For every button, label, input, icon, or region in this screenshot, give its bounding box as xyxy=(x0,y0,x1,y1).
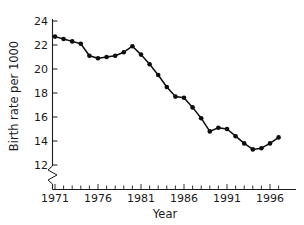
data-point xyxy=(113,54,118,59)
x-axis-title: Year xyxy=(152,207,178,221)
data-point xyxy=(79,42,84,47)
y-tick-label-12: 12 xyxy=(34,159,48,172)
data-point xyxy=(147,62,152,67)
data-point xyxy=(216,126,221,131)
data-point xyxy=(53,34,58,39)
y-axis-break-icon xyxy=(48,166,57,184)
data-point xyxy=(96,56,101,61)
data-point xyxy=(130,44,135,49)
data-point xyxy=(233,134,238,139)
data-point xyxy=(208,129,213,134)
data-point xyxy=(87,54,92,59)
data-point xyxy=(104,55,109,60)
x-tick-label-1991: 1991 xyxy=(213,192,241,205)
data-point xyxy=(182,96,187,101)
y-tick-label-22: 22 xyxy=(34,39,48,52)
y-tick-label-20: 20 xyxy=(34,63,48,76)
x-axis-tick-labels: 1971 1976 1981 1986 1991 1996 xyxy=(41,192,284,205)
x-tick-label-1981: 1981 xyxy=(127,192,155,205)
data-point xyxy=(156,73,161,78)
x-tick-label-1976: 1976 xyxy=(84,192,112,205)
data-point xyxy=(225,127,230,132)
y-axis-title: Birth rate per 1000 xyxy=(7,41,21,151)
x-axis-minor-ticks xyxy=(55,184,279,190)
data-point xyxy=(173,94,178,99)
x-tick-label-1986: 1986 xyxy=(170,192,198,205)
data-point xyxy=(259,146,264,151)
y-tick-label-14: 14 xyxy=(34,135,48,148)
data-point xyxy=(70,39,75,44)
x-tick-label-1971: 1971 xyxy=(41,192,69,205)
birth-rate-series-line xyxy=(55,37,279,150)
y-tick-label-18: 18 xyxy=(34,87,48,100)
data-point xyxy=(276,135,281,140)
y-tick-label-16: 16 xyxy=(34,111,48,124)
x-tick-label-1996: 1996 xyxy=(256,192,284,205)
data-point xyxy=(251,147,256,152)
y-tick-label-24: 24 xyxy=(34,15,48,28)
chart-svg: Birth rate per 1000 Year 24 22 20 18 16 … xyxy=(0,0,304,225)
data-point xyxy=(190,105,195,110)
data-point xyxy=(139,52,144,57)
data-point xyxy=(268,141,273,146)
data-point xyxy=(165,85,170,90)
data-point xyxy=(61,37,66,42)
data-point xyxy=(199,116,204,121)
data-point xyxy=(122,50,127,55)
birth-rate-line-chart: Birth rate per 1000 Year 24 22 20 18 16 … xyxy=(0,0,304,225)
data-point xyxy=(242,141,247,146)
